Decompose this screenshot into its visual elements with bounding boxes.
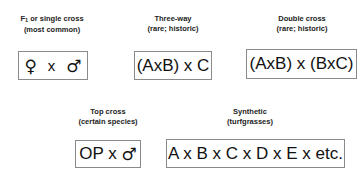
- top-cross-formula: OP x ♂: [75, 140, 141, 168]
- three-way-title: Three-way: [138, 14, 208, 24]
- single-cross-subtitle: (most common): [8, 25, 96, 35]
- synthetic-title: Synthetic: [210, 107, 290, 117]
- double-cross-subtitle: (rare; historic): [262, 24, 342, 34]
- double-cross-label: Double cross (rare; historic): [262, 14, 342, 34]
- single-cross-label: F1 or single cross (most common): [8, 14, 96, 35]
- double-cross-formula: (AxB) x (BxC): [246, 49, 357, 79]
- female-symbol-icon: ♀: [24, 56, 36, 76]
- three-way-formula: (AxB) x C: [134, 51, 212, 80]
- top-cross-label: Top cross (certain species): [68, 107, 148, 127]
- top-cross-text: OP x: [79, 144, 121, 164]
- synthetic-subtitle: (turfgrasses): [210, 117, 290, 127]
- top-cross-title: Top cross: [68, 107, 148, 117]
- three-way-subtitle: (rare; historic): [138, 24, 208, 34]
- synthetic-formula: A x B x C x D x E x etc.: [166, 139, 345, 168]
- single-cross-formula: ♀ x ♂: [18, 51, 88, 80]
- cross-operator: x: [48, 57, 56, 74]
- double-cross-title: Double cross: [262, 14, 342, 24]
- male-symbol-icon: ♂: [121, 144, 136, 164]
- single-cross-title: F1 or single cross: [8, 14, 96, 25]
- top-cross-subtitle: (certain species): [68, 117, 148, 127]
- male-symbol-icon: ♂: [66, 56, 81, 76]
- synthetic-label: Synthetic (turfgrasses): [210, 107, 290, 127]
- three-way-label: Three-way (rare; historic): [138, 14, 208, 34]
